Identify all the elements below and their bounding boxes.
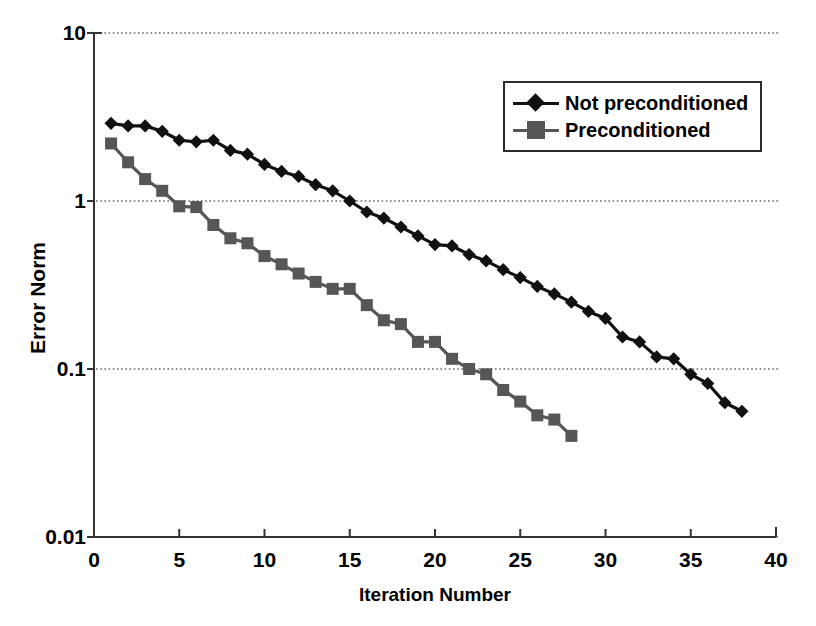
x-tick-label: 10 [235, 549, 295, 570]
x-axis-title: Iteration Number [94, 584, 776, 606]
y-axis-title: Error Norm [26, 208, 50, 388]
x-tick-label: 20 [405, 549, 465, 570]
chart-legend: Not preconditioned Preconditioned [503, 81, 762, 152]
x-tick-label: 25 [490, 549, 550, 570]
y-tick-label: 0.01 [6, 526, 86, 547]
legend-label-preconditioned: Preconditioned [565, 120, 711, 140]
x-tick-label: 35 [661, 549, 721, 570]
x-tick-label: 30 [576, 549, 636, 570]
x-tick-label: 5 [149, 549, 209, 570]
series-group [104, 117, 748, 442]
x-tick-label: 40 [746, 549, 806, 570]
legend-item-not-preconditioned: Not preconditioned [513, 89, 748, 116]
y-tick-label: 10 [6, 22, 86, 43]
legend-swatch-square-icon [513, 119, 559, 141]
legend-label-not-preconditioned: Not preconditioned [565, 93, 748, 113]
x-tick-label: 15 [320, 549, 380, 570]
legend-item-preconditioned: Preconditioned [513, 116, 748, 143]
chart-container: 1010.10.01 0510152025303540 Error Norm I… [0, 0, 816, 626]
legend-swatch-diamond-icon [513, 92, 559, 114]
x-tick-label: 0 [64, 549, 124, 570]
